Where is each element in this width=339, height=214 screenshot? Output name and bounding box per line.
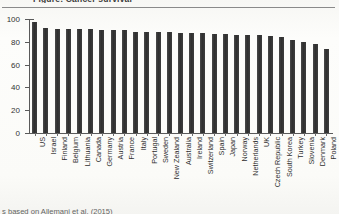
x-tick-label: Switzerland — [206, 137, 215, 174]
bar-series — [29, 19, 332, 133]
bar — [245, 35, 250, 133]
x-tick-label: US — [38, 137, 47, 147]
figure-caption: s based on Allemani et al. (2015) — [2, 207, 113, 214]
x-tick — [192, 133, 193, 136]
x-tick — [80, 133, 81, 136]
x-tick — [35, 133, 36, 136]
bar — [66, 29, 71, 133]
bar — [111, 30, 116, 133]
x-tick — [259, 133, 260, 136]
bar — [313, 44, 318, 133]
x-tick — [169, 133, 170, 136]
x-tick-label: Italy — [139, 137, 148, 150]
x-tick-label: Sweden — [161, 137, 170, 163]
x-tick — [46, 133, 47, 136]
x-tick — [68, 133, 69, 136]
x-tick — [225, 133, 226, 136]
bar — [156, 32, 161, 133]
header-rule — [2, 7, 335, 8]
bar — [144, 32, 149, 133]
x-tick-label: France — [127, 137, 136, 159]
bar — [88, 29, 93, 133]
y-tick — [25, 87, 29, 88]
y-tick-label: 40 — [0, 83, 20, 92]
x-tick-label: Norway — [240, 137, 249, 161]
bar — [200, 33, 205, 133]
x-tick-label: Israel — [49, 137, 58, 155]
bar — [32, 22, 37, 133]
x-tick-label: UK — [262, 137, 271, 147]
y-tick — [25, 110, 29, 111]
y-tick — [25, 19, 29, 20]
x-tick-label: Austria — [116, 137, 125, 159]
x-tick — [315, 133, 316, 136]
x-tick — [181, 133, 182, 136]
bar-chart-plot — [29, 19, 332, 133]
x-tick-label: Australia — [184, 137, 193, 165]
x-tick — [91, 133, 92, 136]
x-tick-label: South Korea — [285, 137, 294, 177]
x-tick — [102, 133, 103, 136]
x-tick-label: Netherlands — [251, 137, 260, 176]
x-tick — [57, 133, 58, 136]
bar — [257, 35, 262, 133]
bar — [178, 33, 183, 133]
x-tick-label: New Zealand — [172, 137, 181, 179]
x-tick — [248, 133, 249, 136]
bar — [290, 40, 295, 133]
x-tick — [147, 133, 148, 136]
x-tick — [237, 133, 238, 136]
figure-title-clipped: Figure: Cancer survival — [33, 0, 132, 3]
x-tick-label: Denmark — [318, 137, 327, 166]
x-tick — [113, 133, 114, 136]
x-tick — [158, 133, 159, 136]
bar — [55, 29, 60, 133]
x-tick-label: Slovenia — [307, 137, 316, 165]
bar — [223, 34, 228, 133]
x-tick-label: Portugal — [150, 137, 159, 164]
x-tick — [326, 133, 327, 136]
y-tick — [25, 42, 29, 43]
x-tick-label: Belgium — [71, 137, 80, 163]
x-tick — [282, 133, 283, 136]
x-tick-label: Poland — [329, 137, 338, 159]
bar — [122, 30, 127, 133]
bar — [167, 32, 172, 133]
x-tick-label: Spain — [217, 137, 226, 155]
x-tick-label: Ireland — [195, 137, 204, 159]
x-tick — [293, 133, 294, 136]
x-tick — [136, 133, 137, 136]
figure-page: Figure: Cancer survival 020406080100 USI… — [0, 0, 339, 214]
y-tick — [25, 65, 29, 66]
bar — [268, 36, 273, 133]
y-tick-label: 100 — [0, 15, 20, 24]
bar — [324, 49, 329, 133]
bar — [279, 37, 284, 133]
bar — [133, 32, 138, 133]
x-tick — [124, 133, 125, 136]
bar — [99, 30, 104, 133]
x-tick-label: Finland — [60, 137, 69, 161]
x-tick-label: Lithuania — [83, 137, 92, 166]
y-tick-label: 0 — [0, 129, 20, 138]
x-tick — [304, 133, 305, 136]
bar — [189, 33, 194, 133]
bar — [77, 29, 82, 133]
bar — [43, 28, 48, 133]
y-tick-label: 60 — [0, 60, 20, 69]
bar — [234, 35, 239, 133]
x-tick-label: Czech Republic — [273, 137, 282, 187]
x-tick-label: Canada — [94, 137, 103, 162]
x-tick — [270, 133, 271, 136]
y-tick-label: 80 — [0, 37, 20, 46]
y-tick — [25, 133, 29, 134]
bar — [301, 42, 306, 133]
y-tick-label: 20 — [0, 106, 20, 115]
x-tick-label: Germany — [105, 137, 114, 167]
x-tick — [203, 133, 204, 136]
bar — [212, 34, 217, 133]
x-tick — [214, 133, 215, 136]
x-tick-label: Turkey — [296, 137, 305, 159]
x-tick-label: Japan — [228, 137, 237, 157]
